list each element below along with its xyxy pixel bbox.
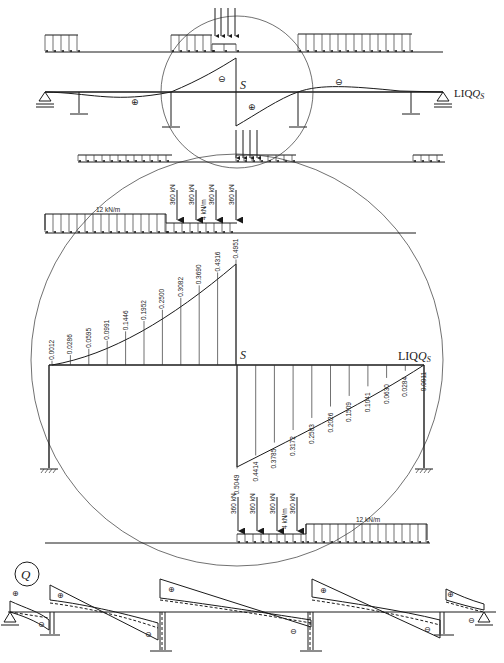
- svg-text:⊖: ⊖: [145, 630, 152, 639]
- pin-support-left: [36, 92, 54, 107]
- svg-text:0.3082: 0.3082: [177, 277, 184, 297]
- svg-text:0.2583: 0.2583: [308, 424, 315, 444]
- svg-text:⊕: ⊕: [320, 586, 327, 595]
- section-label-detail: S: [240, 348, 246, 362]
- diagram-canvas: ⊕ ⊖ ⊕ ⊖ S LIQQS 12 kN/m: [0, 0, 504, 663]
- q-label: Q: [21, 567, 31, 582]
- pin-support-right: [434, 92, 452, 107]
- svg-text:12 kN/m: 12 kN/m: [356, 516, 380, 523]
- liqs-label-detail: LIQQS: [398, 349, 431, 364]
- svg-text:360 kN: 360 kN: [230, 493, 237, 514]
- svg-text:360 kN: 360 kN: [289, 493, 296, 514]
- svg-text:0.3690: 0.3690: [195, 264, 202, 284]
- svg-text:0.3785: 0.3785: [270, 448, 277, 468]
- lane-load-label: 12 kN/m: [96, 206, 120, 213]
- svg-text:4 kN/m: 4 kN/m: [200, 199, 207, 220]
- svg-text:0.4316: 0.4316: [214, 251, 221, 271]
- axle-loads-detail-bottom: 360 kN 360 kN 360 kN 360 kN 4 kN/m: [230, 493, 297, 531]
- svg-text:0.2026: 0.2026: [327, 412, 334, 432]
- svg-text:360 kN: 360 kN: [208, 184, 215, 205]
- svg-text:0.1041: 0.1041: [364, 392, 371, 412]
- svg-text:⊕: ⊕: [168, 585, 175, 594]
- top-overview: ⊕ ⊖ ⊕ ⊖ S LIQQS: [36, 8, 484, 542]
- fixed-support-right: [415, 469, 433, 473]
- svg-text:360 kN: 360 kN: [269, 493, 276, 514]
- svg-text:0.0991: 0.0991: [103, 319, 110, 339]
- svg-text:360 kN: 360 kN: [169, 184, 176, 205]
- svg-text:0.2500: 0.2500: [158, 288, 165, 308]
- svg-text:0.0012: 0.0012: [48, 339, 55, 359]
- svg-text:360 kN: 360 kN: [188, 184, 195, 205]
- svg-text:0.0630: 0.0630: [383, 384, 390, 404]
- shear-envelope-diagram: Q ⊕: [1, 562, 496, 651]
- section-label: S: [240, 78, 246, 92]
- svg-text:⊕: ⊕: [447, 590, 454, 599]
- svg-text:0.4951: 0.4951: [232, 238, 239, 258]
- svg-text:360 kN: 360 kN: [228, 184, 235, 205]
- minus-sign: ⊖: [335, 77, 343, 87]
- liqs-label-top: LIQQS: [454, 87, 484, 101]
- svg-text:LIQQS: LIQQS: [454, 87, 484, 101]
- axle-loads-top: [215, 8, 235, 36]
- svg-text:LIQQS: LIQQS: [398, 349, 431, 364]
- fixed-support-left: [40, 469, 58, 473]
- svg-text:0.1952: 0.1952: [140, 300, 147, 320]
- svg-text:0.1446: 0.1446: [122, 310, 129, 330]
- svg-text:0.0595: 0.0595: [85, 328, 92, 348]
- svg-text:0.5049: 0.5049: [233, 474, 240, 494]
- axle-loads-detail-top: 360 kN 360 kN 360 kN 360 kN 4 kN/m: [169, 184, 236, 220]
- svg-text:0.4414: 0.4414: [252, 461, 259, 481]
- svg-text:0.1509: 0.1509: [345, 402, 352, 422]
- svg-text:4 kN/m: 4 kN/m: [281, 508, 288, 529]
- minus-sign: ⊖: [218, 74, 226, 84]
- ordinates-right: 0.50490.44140.37850.31720.25830.20260.15…: [233, 365, 427, 495]
- svg-text:0.3172: 0.3172: [289, 436, 296, 456]
- svg-text:0.0286: 0.0286: [66, 334, 73, 354]
- columns-bottom: [40, 612, 454, 651]
- udl-middle: [171, 35, 236, 44]
- svg-text:⊖: ⊖: [38, 620, 45, 629]
- svg-text:⊕: ⊕: [12, 589, 19, 598]
- svg-text:⊖: ⊖: [424, 625, 431, 634]
- svg-text:⊖: ⊖: [468, 616, 475, 625]
- svg-text:⊖: ⊖: [290, 627, 297, 636]
- plus-sign: ⊕: [131, 97, 139, 107]
- svg-text:0.0284: 0.0284: [401, 377, 408, 397]
- plus-sign: ⊕: [248, 102, 256, 112]
- svg-text:0.0011: 0.0011: [420, 371, 427, 391]
- ordinates-left: 0.00120.02860.05950.09910.14460.19520.25…: [48, 238, 239, 365]
- pin-supports-bottom: [1, 612, 493, 625]
- svg-text:360 kN: 360 kN: [249, 493, 256, 514]
- svg-text:⊕: ⊕: [57, 591, 64, 600]
